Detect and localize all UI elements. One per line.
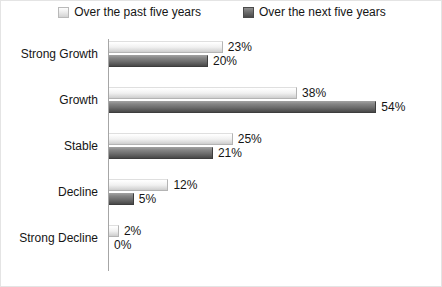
bar-value-next-decline: 5% <box>134 193 156 205</box>
plot-area: Strong Growth 23% 20% Growth 38% <box>1 31 442 281</box>
bar-line-past-stable: 25% <box>109 133 262 145</box>
bar-past-stable[interactable] <box>109 133 233 145</box>
category-label-decline: Decline <box>0 169 98 215</box>
bar-value-past-decline: 12% <box>168 179 197 191</box>
category-row-decline: Decline 12% 5% <box>1 169 442 215</box>
category-label-growth: Growth <box>0 77 98 123</box>
bar-past-strong-decline[interactable] <box>109 225 119 237</box>
bar-value-past-growth: 38% <box>297 87 326 99</box>
legend-item-past[interactable]: Over the past five years <box>58 6 201 18</box>
bar-value-next-growth: 54% <box>376 101 405 113</box>
bar-next-stable[interactable] <box>109 147 213 159</box>
bar-value-past-strong-growth: 23% <box>223 41 252 53</box>
bar-value-next-strong-decline: 0% <box>109 239 131 251</box>
bar-past-strong-growth[interactable] <box>109 41 223 53</box>
bar-past-decline[interactable] <box>109 179 168 191</box>
legend-swatch-past-icon <box>58 7 69 18</box>
bar-line-next-decline: 5% <box>109 193 156 205</box>
legend-label-next: Over the next five years <box>259 6 386 18</box>
bar-group-stable: 25% 21% <box>109 123 442 169</box>
bar-line-next-growth: 54% <box>109 101 405 113</box>
bar-line-next-stable: 21% <box>109 147 242 159</box>
category-row-growth: Growth 38% 54% <box>1 77 442 123</box>
bar-line-past-strong-growth: 23% <box>109 41 252 53</box>
bar-value-past-stable: 25% <box>233 133 262 145</box>
bar-past-growth[interactable] <box>109 87 297 99</box>
category-row-strong-growth: Strong Growth 23% 20% <box>1 31 442 77</box>
category-label-strong-decline: Strong Decline <box>0 215 98 261</box>
bar-group-strong-decline: 2% 0% <box>109 215 442 261</box>
bar-line-next-strong-growth: 20% <box>109 55 237 67</box>
chart-container: Over the past five years Over the next f… <box>0 0 442 287</box>
category-label-stable: Stable <box>0 123 98 169</box>
bar-group-decline: 12% 5% <box>109 169 442 215</box>
bar-value-past-strong-decline: 2% <box>119 225 141 237</box>
bar-group-strong-growth: 23% 20% <box>109 31 442 77</box>
bar-value-next-strong-growth: 20% <box>208 55 237 67</box>
bar-next-decline[interactable] <box>109 193 134 205</box>
category-row-strong-decline: Strong Decline 2% 0% <box>1 215 442 261</box>
bar-line-next-strong-decline: 0% <box>109 239 131 251</box>
bar-line-past-strong-decline: 2% <box>109 225 141 237</box>
bar-line-past-decline: 12% <box>109 179 197 191</box>
category-row-stable: Stable 25% 21% <box>1 123 442 169</box>
bar-next-growth[interactable] <box>109 101 376 113</box>
category-label-strong-growth: Strong Growth <box>0 31 98 77</box>
legend-swatch-next-icon <box>243 7 254 18</box>
legend-label-past: Over the past five years <box>74 6 201 18</box>
bar-next-strong-growth[interactable] <box>109 55 208 67</box>
bar-value-next-stable: 21% <box>213 147 242 159</box>
chart-legend: Over the past five years Over the next f… <box>1 6 442 18</box>
bar-line-past-growth: 38% <box>109 87 326 99</box>
legend-item-next[interactable]: Over the next five years <box>243 6 386 18</box>
bar-group-growth: 38% 54% <box>109 77 442 123</box>
